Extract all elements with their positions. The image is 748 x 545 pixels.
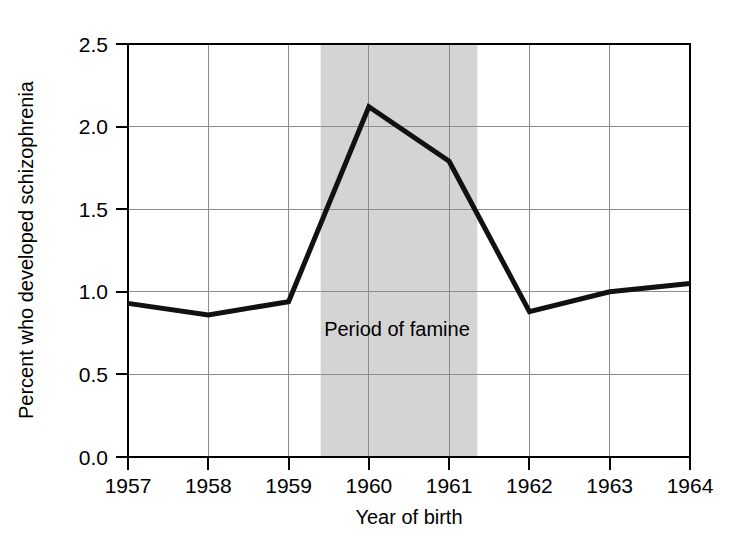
x-tick-label-4: 1961 — [426, 474, 473, 497]
x-tick-label-0: 1957 — [105, 474, 152, 497]
x-tick-label-7: 1964 — [667, 474, 714, 497]
y-tick-label-4: 2.0 — [79, 115, 108, 138]
famine-band-label: Period of famine — [324, 318, 470, 340]
schizophrenia-famine-line-chart: 0.0 0.5 1.0 1.5 2.0 2.5 1957 1958 1959 1… — [0, 0, 748, 545]
chart-figure: 0.0 0.5 1.0 1.5 2.0 2.5 1957 1958 1959 1… — [0, 0, 748, 545]
y-tick-label-5: 2.5 — [79, 33, 108, 56]
y-tick-marks — [116, 44, 128, 457]
x-tick-labels: 1957 1958 1959 1960 1961 1962 1963 1964 — [105, 474, 714, 497]
y-tick-label-3: 1.5 — [79, 198, 108, 221]
x-tick-label-5: 1962 — [506, 474, 553, 497]
y-tick-label-1: 0.5 — [79, 363, 108, 386]
y-tick-labels: 0.0 0.5 1.0 1.5 2.0 2.5 — [79, 33, 108, 469]
y-tick-label-0: 0.0 — [79, 446, 108, 469]
x-axis-title: Year of birth — [355, 506, 462, 528]
famine-band-shading — [321, 44, 478, 457]
x-tick-label-6: 1963 — [586, 474, 633, 497]
x-tick-marks — [128, 457, 690, 470]
y-axis-title: Percent who developed schizophrenia — [15, 80, 37, 419]
x-tick-label-3: 1960 — [346, 474, 393, 497]
x-tick-label-2: 1959 — [265, 474, 312, 497]
y-tick-label-2: 1.0 — [79, 280, 108, 303]
x-tick-label-1: 1958 — [185, 474, 232, 497]
